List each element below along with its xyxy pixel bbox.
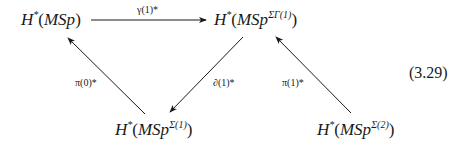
arrow-pi1 [276,37,351,113]
node-top-left: H*(MSp) [21,11,81,28]
node-bottom-right: H*(MSpΣ(2)) [317,121,394,138]
label-gamma: γ(1)* [137,5,158,15]
arrow-pi0 [68,38,145,114]
label-partial1: ∂(1)* [213,78,235,88]
node-bottom-left: H*(MSpΣ(1)) [115,121,192,138]
label-pi1: π(1)* [282,78,304,88]
arrow-partial1 [170,37,243,112]
equation-number: (3.29) [409,64,448,82]
label-pi0: π(0)* [75,78,97,88]
node-top-right: H*(MSpΣΓ(1)) [214,11,297,28]
